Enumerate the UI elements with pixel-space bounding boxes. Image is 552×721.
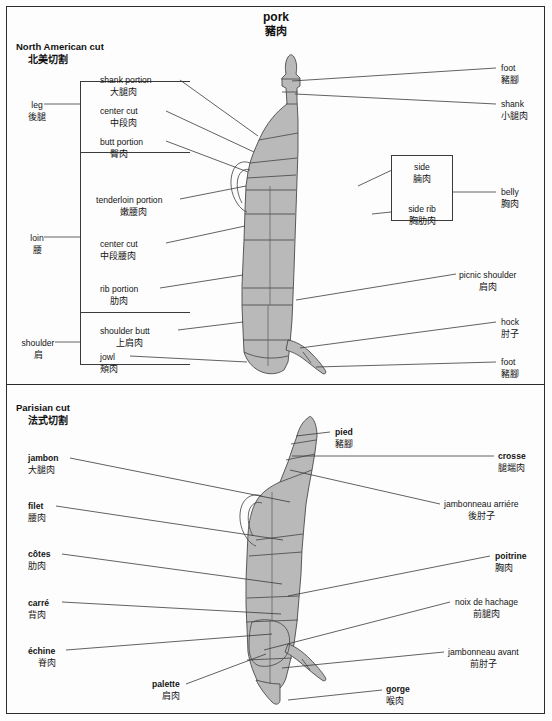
leader-jowl [130, 356, 247, 362]
leader-shank-portion [180, 80, 258, 136]
leader-gorge [288, 690, 382, 700]
leader-tenderloin [180, 186, 246, 199]
leader-center-cut-loin [166, 226, 245, 243]
leader-rib-portion [160, 275, 243, 288]
leader-jambon [70, 458, 290, 502]
leader-echine [66, 634, 272, 650]
leader-foot-top [292, 68, 496, 81]
leader-jambonneau-arriere [290, 470, 440, 504]
diagram-artwork [0, 0, 552, 721]
jowl-lobe-pa [256, 680, 280, 704]
pork-cuts-diagram: pork 豬肉 North American cut 北美切割 Parisian… [0, 0, 552, 721]
leader-side-rib [372, 212, 391, 214]
leader-poitrine [288, 556, 490, 596]
leader-picnic [296, 274, 456, 300]
leader-shoulder-butt [178, 322, 243, 330]
leader-shank [295, 94, 496, 104]
leader-foot-bot [316, 362, 496, 367]
carcass-outline-pa [246, 417, 317, 693]
trotter-pa [285, 644, 326, 681]
pig-body-parisian [240, 417, 326, 705]
leader-side [358, 170, 392, 186]
leader-hock [300, 322, 496, 348]
pig-body-north-american [231, 55, 326, 374]
leader-butt-portion [166, 141, 248, 172]
